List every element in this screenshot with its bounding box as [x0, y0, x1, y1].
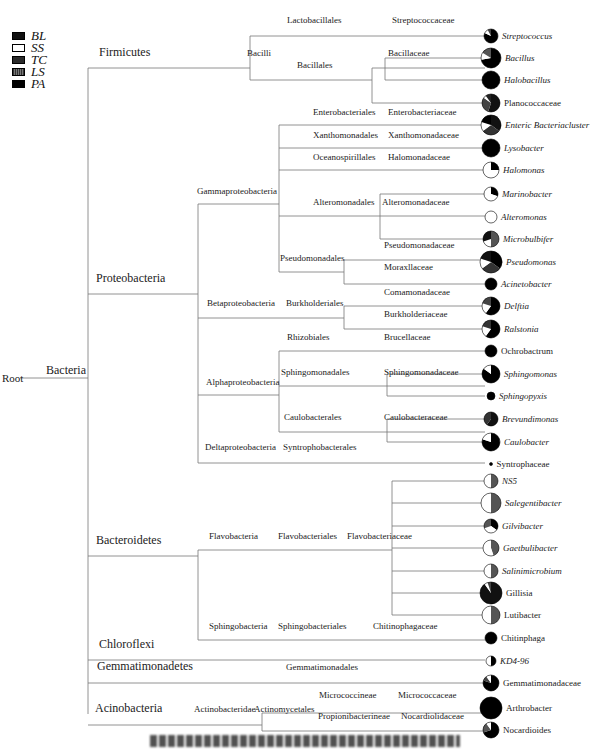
leaf-label: Salegentibacter [505, 498, 561, 508]
taxon-label: Bacilli [247, 48, 271, 58]
taxon-label: Syntrophobacterales [283, 442, 356, 452]
abundance-pie [480, 697, 502, 719]
root-label: Root [2, 373, 23, 383]
abundance-pie [483, 675, 499, 691]
abundance-pie [483, 162, 499, 178]
taxon-label: Flavobacteriales [278, 531, 337, 541]
leaf-label: Gillisia [506, 588, 533, 598]
leaf-label: Planococcaceae [504, 98, 561, 108]
abundance-pie [484, 564, 498, 578]
taxon-label: Micrococcineae [319, 690, 376, 700]
abundance-pie [482, 139, 500, 157]
taxon-label: Caulobacterales [284, 412, 341, 422]
leaf-label: Ralstonia [504, 324, 539, 334]
abundance-pie [483, 231, 499, 247]
taxon-label: Deltaproteobacteria [205, 442, 276, 452]
taxon-label: Nocardiolidaceae [401, 711, 464, 721]
taxon-label: Alteromonadales [313, 197, 374, 207]
taxon-label: Sphingomonadaceae [384, 367, 458, 377]
abundance-pie [482, 606, 500, 624]
taxon-label: Comamonadaceae [384, 287, 450, 297]
abundance-pie [485, 211, 497, 223]
leaf-label: Marinobacter [502, 189, 552, 199]
abundance-pie [482, 433, 500, 451]
abundance-pie [484, 519, 498, 533]
phylum-label: Gemmatimonadetes [97, 660, 193, 673]
abundance-pie [484, 412, 498, 426]
leaf-label: Sphingomonas [504, 369, 557, 379]
taxon-label: Sphingobacteria [209, 621, 267, 631]
taxon-label: Flavobacteria [209, 531, 258, 541]
leaf-label: Enteric Bacteriacluster [505, 120, 589, 130]
taxon-label: Bacillaceae [388, 48, 429, 58]
abundance-pie [485, 278, 497, 290]
taxon-label: Xanthomonadaceae [388, 130, 459, 140]
abundance-pie [482, 365, 500, 383]
leaf-label: Gemmatimonadaceae [503, 678, 581, 688]
kingdom-label: Bacteria [46, 364, 86, 377]
taxon-label: Actinomycetales [254, 704, 314, 714]
leaf-label: Acinetobacter [501, 279, 551, 289]
leaf-label: Gaetbulibacter [503, 543, 558, 553]
taxon-label: Lactobacillales [287, 15, 341, 25]
leaf-label: NS5 [502, 476, 517, 486]
taxon-label: Gemmatimonadales [286, 662, 358, 672]
leaf-label: Streptococcus [502, 31, 552, 41]
leaf-label: Delftia [504, 301, 529, 311]
taxon-label: Enterobacteriales [313, 107, 375, 117]
taxon-label: Oceanospirillales [313, 152, 375, 162]
taxon-label: Burkholderiales [286, 298, 344, 308]
legend-swatch [12, 80, 25, 88]
leaf-label: Halobacillus [504, 75, 551, 85]
taxon-label: Actinobacteridae [194, 704, 255, 714]
taxon-label: Rhizobiales [287, 332, 330, 342]
leaf-label: Pseudomonas [506, 257, 556, 267]
leaf-label: Bacillus [505, 53, 535, 63]
leaf-label: Gilvibacter [502, 521, 543, 531]
leaf-label: Salinimicrobium [502, 566, 562, 576]
abundance-pie [484, 187, 498, 201]
taxon-label: Enterobacteriaceae [388, 107, 456, 117]
taxon-label: Brucellaceae [384, 332, 430, 342]
leaf-label: Arthrobacter [506, 703, 552, 713]
taxon-label: Pseudomonadales [280, 253, 345, 263]
abundance-pie [481, 493, 501, 513]
phylum-label: Firmicutes [99, 46, 150, 59]
leaf-label: Chitinphaga [501, 633, 545, 643]
abundance-pie [482, 94, 500, 112]
taxon-label: Halomonadaceae [388, 152, 450, 162]
abundance-pie [480, 582, 502, 604]
abundance-pie [486, 656, 496, 666]
abundance-pie [487, 392, 495, 400]
leaf-label: Microbulbifer [503, 234, 553, 244]
taxon-label: Bacillales [297, 60, 333, 70]
legend-swatch [12, 56, 25, 64]
taxon-label: Alphaproteobacteria [206, 377, 279, 387]
leaf-label: Lutibacter [504, 610, 541, 620]
phylum-label: Bacteroidetes [96, 534, 161, 547]
abundance-pie [490, 463, 493, 466]
leaf-label: Alteromonas [501, 212, 547, 222]
legend-swatch [12, 44, 25, 52]
abundance-pie [483, 722, 499, 738]
leaf-label: Brevundimonas [502, 414, 558, 424]
taxon-label: Sphingomonadales [281, 367, 350, 377]
abundance-pie [485, 632, 497, 644]
abundance-pie [480, 251, 502, 273]
abundance-pie [484, 29, 498, 43]
legend-swatch [12, 68, 25, 76]
abundance-pies [480, 29, 502, 738]
taxon-label: Xanthomonadales [313, 130, 378, 140]
taxon-label: Alteromonadaceae [382, 197, 449, 207]
taxon-label: Flavobacteriaceae [347, 531, 412, 541]
leaf-label: Sphingopyxis [499, 391, 547, 401]
phylum-label: Proteobacteria [96, 272, 165, 285]
leaf-label: Caulobacter [504, 437, 549, 447]
taxon-label: Burkholderiaceae [384, 309, 447, 319]
taxon-label: Micrococcaceae [398, 690, 456, 700]
leaf-label: Lysobacter [504, 143, 544, 153]
taxon-label: Chitinophagaceae [373, 621, 437, 631]
taxon-label: Propionibacterineae [318, 711, 390, 721]
phylum-label: Acinobacteria [95, 702, 162, 715]
abundance-pie [482, 320, 500, 338]
